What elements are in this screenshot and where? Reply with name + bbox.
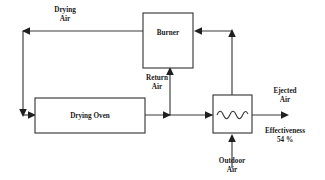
arrowhead-left-riser-down	[19, 109, 27, 117]
process-flow-diagram: Burner Drying Oven Drying Air Return Air…	[0, 0, 325, 180]
arrowhead-ejected-air	[281, 111, 289, 119]
effectiveness-value: 54 %	[277, 136, 293, 144]
outdoor-air-label-line1: Outdoor	[219, 157, 246, 165]
drying-air-label-line2: Air	[60, 15, 71, 23]
return-air-label-line1: Return	[146, 74, 168, 82]
ejected-air-label-line1: Ejected	[273, 87, 296, 95]
heat-exchanger-box	[213, 95, 252, 133]
return-air-label-line2: Air	[152, 83, 163, 91]
arrowhead-heat-exchanger-inlet	[205, 111, 213, 119]
burner-box-label: Burner	[157, 29, 180, 37]
arrowhead-outdoor-air-into-heat-exchanger	[228, 134, 236, 142]
drying-air-label-line1: Drying	[54, 6, 76, 14]
arrowhead-burner-right-inlet	[194, 27, 202, 35]
burner-box	[143, 13, 193, 68]
flow-diagram-canvas: Burner Drying Oven Drying Air Return Air…	[0, 0, 325, 180]
ejected-air-label-line2: Air	[280, 96, 291, 104]
outdoor-air-label-line2: Air	[227, 166, 238, 174]
effectiveness-label: Effectiveness	[265, 127, 305, 135]
arrowhead-heat-exchanger-riser-up	[228, 29, 236, 37]
drying-oven-box-label: Drying Oven	[70, 112, 110, 120]
